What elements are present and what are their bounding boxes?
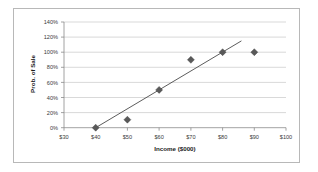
data-point-50 [124,116,131,123]
x-tick-label-70: $70 [186,134,195,140]
y-tick-label-40: 40% [47,95,58,101]
y-tick-label-20: 20% [47,110,58,116]
x-tick-label-80: $80 [218,134,227,140]
scatter-plot: 140% 120% 100% 80% 60% 40% 20% 0% $30 $4… [14,9,299,162]
y-axis-ticks [61,22,64,128]
x-tick-label-30: $30 [59,134,68,140]
y-tick-label-100: 100% [44,49,58,55]
data-point-70 [187,56,194,63]
trendline [96,41,242,128]
y-axis-tick-labels: 140% 120% 100% 80% 60% 40% 20% 0% [44,19,58,131]
x-axis-tick-labels: $30 $40 $50 $60 $70 $80 $90 $100 [59,134,292,140]
x-tick-label-90: $90 [250,134,259,140]
y-tick-label-140: 140% [44,19,58,25]
gridlines [64,22,286,113]
y-tick-label-120: 120% [44,34,58,40]
x-tick-label-50: $50 [123,134,132,140]
data-point-90 [251,49,258,56]
y-tick-label-0: 0% [50,125,58,131]
data-point-40 [92,124,99,131]
y-tick-label-60: 60% [47,80,58,86]
x-axis-title: Income ($000) [154,145,195,152]
y-tick-label-80: 80% [47,64,58,70]
y-axis-title: Prob. of Sale [29,55,36,93]
chart-container: 140% 120% 100% 80% 60% 40% 20% 0% $30 $4… [13,8,300,163]
data-point-60 [156,86,163,93]
x-tick-label-100: $100 [280,134,292,140]
x-tick-label-40: $40 [91,134,100,140]
data-points [92,49,258,132]
x-tick-label-60: $60 [154,134,163,140]
data-point-80 [219,49,226,56]
